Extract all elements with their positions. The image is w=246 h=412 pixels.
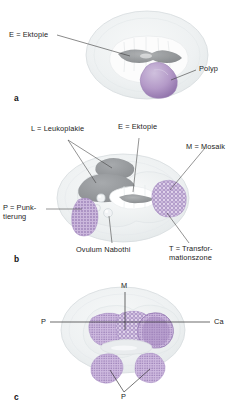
- ovulum-nabothi-cyst-1: [97, 194, 105, 202]
- leader-line-mosaik-b: [170, 148, 205, 190]
- label-carcinoma-c: Ca: [214, 317, 224, 326]
- punktierung-region-c-lower-left: [91, 354, 123, 383]
- label-leukoplakie-b: L = Leukoplakie: [31, 124, 84, 133]
- label-ovulum-nabothi-b: Ovulum Nabothi: [76, 245, 130, 254]
- punktierung-region-b: [72, 198, 98, 236]
- label-punktierung-left-c: P: [41, 317, 46, 326]
- label-ektopie-b: E = Ektopie: [118, 122, 157, 131]
- panel-b-illustration: [46, 138, 205, 243]
- label-mosaik-c: M: [121, 281, 127, 290]
- colposcopy-figure-plate: E = Ektopie Polyp a L = Leukoplakie E = …: [0, 0, 246, 412]
- panel-a-illustration: [57, 11, 208, 99]
- panel-letter-a: a: [14, 93, 19, 103]
- label-mosaik-b: M = Mosaik: [186, 142, 225, 151]
- panel-c-illustration: [50, 287, 210, 392]
- label-transformationszone-b: T = Transfor- mationszone: [169, 244, 213, 262]
- mosaik-region-b: [152, 180, 187, 217]
- label-ektopie-a: E = Ektopie: [9, 30, 48, 39]
- cervix-diagram-svg: [0, 0, 246, 412]
- panel-letter-b: b: [14, 254, 19, 264]
- panel-letter-c: c: [14, 392, 19, 402]
- label-punktierung-b: P = Punk- tierung: [3, 203, 36, 221]
- ovulum-nabothi-cyst-3: [104, 209, 113, 218]
- label-polyp-a: Polyp: [199, 64, 218, 73]
- label-punktierung-bottom-c: P: [121, 392, 126, 401]
